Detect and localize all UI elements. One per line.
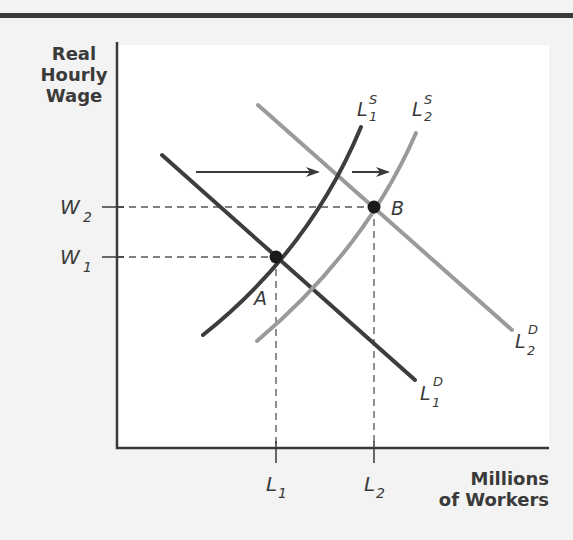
svg-text:1: 1 — [369, 109, 377, 124]
svg-text:W: W — [60, 245, 81, 269]
svg-text:S: S — [424, 92, 432, 107]
supply-curve-L1S — [203, 127, 361, 335]
svg-text:L: L — [364, 472, 375, 496]
y-tick-label-W1: W 1 — [60, 245, 92, 275]
svg-text:L: L — [412, 98, 423, 120]
curve-label-L2S: L S 2 — [412, 92, 432, 124]
x-tick-label-L1: L 1 — [266, 472, 287, 501]
x-tick-label-L2: L 2 — [364, 472, 385, 501]
curve-label-L1D: L D 1 — [420, 374, 443, 410]
svg-text:2: 2 — [376, 485, 385, 501]
point-label-B: B — [391, 197, 404, 219]
svg-text:S: S — [369, 92, 377, 107]
ticks — [102, 207, 374, 463]
svg-text:1: 1 — [278, 485, 287, 501]
point-label-A: A — [252, 287, 267, 309]
svg-text:2: 2 — [83, 209, 92, 225]
svg-text:L: L — [420, 382, 431, 404]
curve-label-L2D: L D 2 — [515, 322, 538, 358]
svg-text:D: D — [433, 374, 443, 389]
svg-text:D: D — [528, 322, 538, 337]
labor-market-chart: A B W 2 W 1 L 1 L 2 L S 1 L S 2 L D 2 L … — [0, 0, 573, 540]
svg-text:L: L — [266, 472, 277, 496]
guide-lines — [117, 207, 374, 448]
svg-text:2: 2 — [527, 343, 535, 358]
demand-curve-L2D — [258, 105, 512, 330]
svg-text:L: L — [515, 330, 526, 352]
svg-text:1: 1 — [432, 395, 440, 410]
curve-label-L1S: L S 1 — [357, 92, 377, 124]
svg-text:L: L — [357, 98, 368, 120]
svg-text:1: 1 — [83, 259, 92, 275]
y-tick-label-W2: W 2 — [60, 195, 92, 225]
demand-curve-L1D — [162, 155, 415, 380]
equilibrium-point-B — [368, 201, 381, 214]
equilibrium-point-A — [270, 251, 283, 264]
svg-text:W: W — [60, 195, 81, 219]
svg-text:2: 2 — [424, 109, 432, 124]
